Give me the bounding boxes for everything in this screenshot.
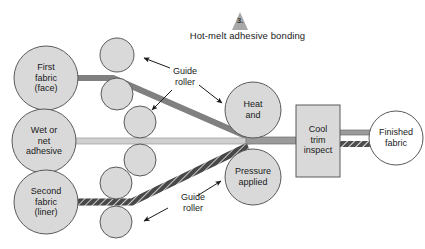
- liner-fabric-web: [72, 146, 248, 202]
- pressure-node-shape: [225, 149, 281, 205]
- diagram-canvas: [0, 0, 425, 249]
- hot-melt-adhesive-bonding-diagram: 3. Hot-melt adhesive bonding First fabri…: [0, 0, 425, 249]
- adhesive-web: [70, 138, 250, 144]
- second-fabric-shape: [14, 170, 78, 234]
- finished-fabric-shape: [369, 111, 423, 165]
- wet-adhesive-shape: [12, 109, 76, 173]
- guide-roller-top-arrows: [144, 58, 222, 110]
- cool-trim-inspect-shape: [296, 105, 340, 177]
- first-fabric-shape: [14, 46, 78, 110]
- heat-node-shape: [225, 82, 281, 138]
- step-triangle-icon: [232, 12, 248, 30]
- face-fabric-web: [72, 78, 248, 137]
